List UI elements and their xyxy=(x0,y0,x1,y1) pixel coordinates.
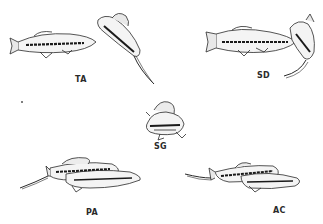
panel-pa: PA xyxy=(0,150,160,224)
panel-label-sd: SD xyxy=(257,71,270,80)
panel-sg: SG xyxy=(130,96,200,156)
stray-mark xyxy=(21,101,23,103)
fish-illustration-ac xyxy=(185,150,323,224)
panel-label-ta: TA xyxy=(75,75,87,84)
fish-illustration-pa xyxy=(0,150,160,224)
fish-illustration-sd xyxy=(160,0,323,95)
panel-sd: SD xyxy=(160,0,323,95)
panel-label-pa: PA xyxy=(86,208,98,217)
panel-label-ac: AC xyxy=(273,206,286,215)
panel-ta: TA xyxy=(0,0,160,95)
panel-ac: AC xyxy=(185,150,323,224)
